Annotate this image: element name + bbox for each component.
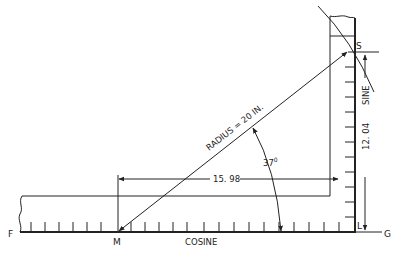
radius-label: RADIUS = 20 IN. [204,102,265,153]
cosine-label: COSINE [185,237,217,247]
radius-arc [318,6,374,92]
sine-scale-ticks [345,67,355,217]
cosine-value: 15. 98 [213,174,240,184]
cosine-scale-ticks [31,222,339,232]
point-label-l: L [357,221,362,231]
angle-label: 370 [263,156,278,168]
point-label-m: M [113,237,121,247]
point-label-s: S [356,41,362,51]
point-label-f: F [8,229,13,239]
point-label-g: G [384,229,391,239]
radius-line [119,52,347,231]
horizontal-bar [19,196,356,232]
sine-label: SINE [361,85,371,105]
sine-bar-diagram: F M S L G COSINE 15. 98 RADIUS = 20 IN. … [0,0,393,256]
sine-value: 12. 04 [361,123,371,150]
